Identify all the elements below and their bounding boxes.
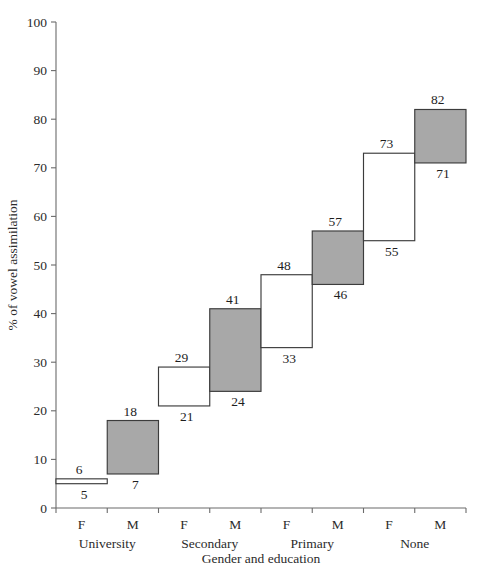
x-axis-ticks	[56, 508, 466, 513]
x-group-label-primary: Primary	[291, 536, 335, 551]
box-high-value-label: 82	[431, 92, 445, 107]
box-high-value-label: 29	[175, 350, 189, 365]
box-high-value-label: 73	[380, 136, 394, 151]
box-low-value-label: 7	[132, 477, 139, 492]
y-tick-label: 100	[27, 15, 48, 30]
x-category-label-m-3: M	[229, 517, 241, 532]
group-labels: UniversitySecondaryPrimaryNone	[79, 536, 430, 551]
box-low-value-label: 24	[231, 394, 245, 409]
y-tick-label: 50	[34, 258, 48, 273]
y-axis-ticks: 0102030405060708090100	[27, 15, 56, 516]
data-boxes	[56, 109, 466, 483]
data-box	[56, 479, 107, 484]
x-category-label-f-2: F	[180, 517, 188, 532]
box-low-value-label: 71	[436, 166, 450, 181]
y-axis: 0102030405060708090100	[27, 15, 56, 516]
y-tick-label: 80	[34, 112, 48, 127]
box-high-value-label: 57	[329, 214, 343, 229]
chart-container: 0102030405060708090100 65187292141244833…	[0, 0, 485, 577]
y-axis-title: % of vowel assimilation	[5, 199, 20, 330]
category-labels: FMFMFMFM	[78, 517, 447, 532]
x-category-label-m-1: M	[127, 517, 139, 532]
x-axis	[56, 508, 466, 513]
box-low-value-label: 21	[180, 409, 194, 424]
box-low-value-label: 33	[282, 351, 296, 366]
data-box	[210, 309, 261, 392]
y-tick-label: 90	[34, 63, 48, 78]
y-tick-label: 30	[34, 355, 48, 370]
x-category-label-f-4: F	[283, 517, 291, 532]
data-box	[364, 153, 415, 240]
x-category-label-f-0: F	[78, 517, 86, 532]
y-tick-label: 20	[34, 403, 48, 418]
x-category-label-m-7: M	[434, 517, 446, 532]
y-tick-label: 40	[34, 306, 48, 321]
x-group-label-university: University	[79, 536, 136, 551]
box-low-value-label: 5	[81, 487, 88, 502]
box-low-value-label: 55	[385, 244, 399, 259]
box-high-value-label: 6	[76, 462, 83, 477]
box-low-value-label: 46	[334, 287, 348, 302]
box-high-value-label: 41	[226, 292, 240, 307]
x-group-label-none: None	[400, 536, 429, 551]
data-box	[159, 367, 210, 406]
y-tick-label: 70	[34, 160, 48, 175]
box-high-value-label: 18	[124, 404, 138, 419]
data-box	[415, 109, 466, 162]
vowel-assimilation-step-chart: 0102030405060708090100 65187292141244833…	[0, 0, 485, 577]
x-group-label-secondary: Secondary	[181, 536, 238, 551]
x-category-label-f-6: F	[385, 517, 393, 532]
data-box	[312, 231, 363, 284]
data-box	[261, 275, 312, 348]
x-category-label-m-5: M	[332, 517, 344, 532]
y-tick-label: 10	[34, 452, 48, 467]
x-axis-title: Gender and education	[202, 551, 321, 566]
y-tick-label: 60	[34, 209, 48, 224]
box-high-value-label: 48	[277, 258, 291, 273]
data-box	[107, 421, 158, 474]
y-tick-label: 0	[40, 501, 47, 516]
